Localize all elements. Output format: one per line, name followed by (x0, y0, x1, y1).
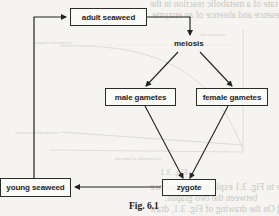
node-adult-seaweed-label: adult seaweed (82, 13, 135, 22)
diagram-canvas: concentration on the rate of a metabolic… (0, 0, 279, 216)
figure-caption: Fig. 6.1 (129, 201, 159, 211)
node-zygote: zygote (162, 179, 216, 196)
node-female-gametes-label: female gametes (203, 93, 262, 102)
node-young-seaweed: young seaweed (0, 178, 71, 197)
node-zygote-label: zygote (177, 183, 202, 192)
node-male-gametes: male gametes (105, 88, 176, 106)
node-meiosis: meiosis (174, 39, 204, 48)
node-female-gametes: female gametes (196, 88, 268, 106)
node-adult-seaweed: adult seaweed (70, 8, 147, 26)
node-male-gametes-label: male gametes (115, 93, 167, 102)
node-young-seaweed-label: young seaweed (6, 183, 64, 192)
